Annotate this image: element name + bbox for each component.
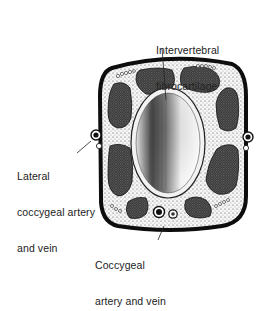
muscle-block-left-upper [108, 83, 132, 128]
label-line: artery and vein [95, 295, 166, 307]
muscle-block-bottom-left [126, 198, 148, 219]
label-line: Lateral [17, 170, 95, 182]
muscle-block-right-upper [216, 88, 239, 131]
label-line: Intervertebral [156, 44, 219, 56]
label-line: Coccygeal [95, 259, 166, 271]
label-line: and vein [17, 242, 95, 254]
label-coccygeal-artery-vein: Coccygeal artery and vein [95, 235, 166, 311]
muscle-block-left-lower [108, 144, 133, 196]
label-intervertebral-fibrocartilage: Intervertebral fibrocartilage [156, 20, 219, 104]
label-line: coccygeal artery [17, 206, 95, 218]
label-lateral-coccygeal-artery-vein: Lateral coccygeal artery and vein [17, 146, 95, 266]
lateral-coccygeal-vessels-right [243, 132, 253, 151]
intervertebral-disc [131, 88, 205, 198]
label-line: fibrocartilage [156, 80, 219, 92]
